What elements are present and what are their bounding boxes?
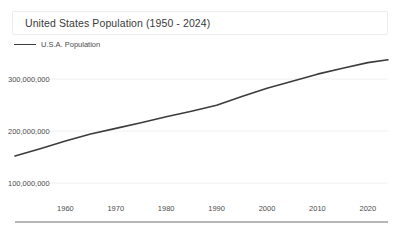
legend-item-label: U.S.A. Population: [41, 40, 100, 49]
y-axis-tick-label: 100,000,000: [8, 179, 50, 188]
line-swatch-icon: [14, 44, 36, 45]
x-axis-tick-label: 2020: [359, 204, 376, 213]
x-axis-tick-label: 2000: [259, 204, 276, 213]
x-axis-tick-label: 1970: [107, 204, 124, 213]
y-axis-tick-label: 300,000,000: [8, 75, 50, 84]
x-axis-tick-label: 2010: [309, 204, 326, 213]
chart-legend: U.S.A. Population: [14, 40, 100, 49]
y-axis-tick-label: 200,000,000: [8, 127, 50, 136]
x-axis-tick-label: 1980: [158, 204, 175, 213]
chart-container: United States Population (1950 - 2024) U…: [0, 0, 400, 239]
series-line-usa-population: [15, 60, 388, 156]
x-axis-tick-label: 1990: [208, 204, 225, 213]
x-axis-tick-label: 1960: [57, 204, 74, 213]
chart-title-box: United States Population (1950 - 2024): [12, 11, 388, 35]
chart-title: United States Population (1950 - 2024): [13, 17, 210, 29]
gridlines: [15, 79, 388, 183]
